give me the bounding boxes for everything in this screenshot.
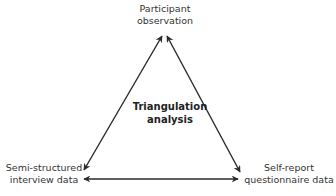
node-bottom-left-line1: Semi-structured <box>2 162 86 174</box>
node-bottom-left: Semi-structured interview data <box>2 162 86 186</box>
node-bottom-right: Self-report questionnaire data <box>242 162 336 186</box>
node-center-line1: Triangulation <box>120 100 220 113</box>
node-top: Participant observation <box>118 3 212 27</box>
node-bottom-right-line2: questionnaire data <box>242 174 336 186</box>
node-center: Triangulation analysis <box>120 100 220 126</box>
node-center-line2: analysis <box>120 113 220 126</box>
node-bottom-right-line1: Self-report <box>242 162 336 174</box>
node-top-line1: Participant <box>118 3 212 15</box>
node-bottom-left-line2: interview data <box>2 174 86 186</box>
node-top-line2: observation <box>118 15 212 27</box>
